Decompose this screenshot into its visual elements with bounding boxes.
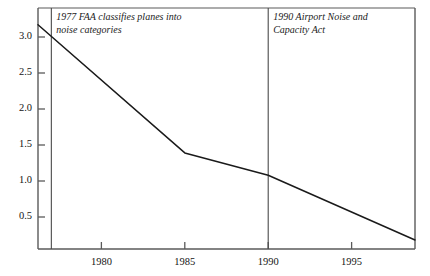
axis-frame bbox=[38, 8, 415, 249]
y-tick-marks bbox=[38, 37, 45, 217]
reference-lines bbox=[51, 8, 268, 249]
x-tick-label: 1985 bbox=[160, 256, 210, 267]
y-tick-label: 1.5 bbox=[0, 138, 32, 149]
y-tick-label: 2.0 bbox=[0, 102, 32, 113]
x-tick-marks bbox=[101, 242, 351, 249]
y-tick-label: 1.0 bbox=[0, 174, 32, 185]
data-series-line bbox=[38, 25, 415, 240]
x-tick-label: 1995 bbox=[327, 256, 377, 267]
y-tick-label: 2.5 bbox=[0, 66, 32, 77]
x-tick-label: 1980 bbox=[76, 256, 126, 267]
line-chart: 0.51.01.52.02.53.0 1980198519901995 1977… bbox=[0, 0, 430, 276]
y-tick-label: 0.5 bbox=[0, 210, 32, 221]
y-tick-label: 3.0 bbox=[0, 30, 32, 41]
reference-line-label: 1990 Airport Noise and Capacity Act bbox=[273, 11, 368, 36]
reference-line-label: 1977 FAA classifies planes into noise ca… bbox=[56, 11, 181, 36]
x-tick-label: 1990 bbox=[243, 256, 293, 267]
plot-area bbox=[0, 0, 430, 276]
